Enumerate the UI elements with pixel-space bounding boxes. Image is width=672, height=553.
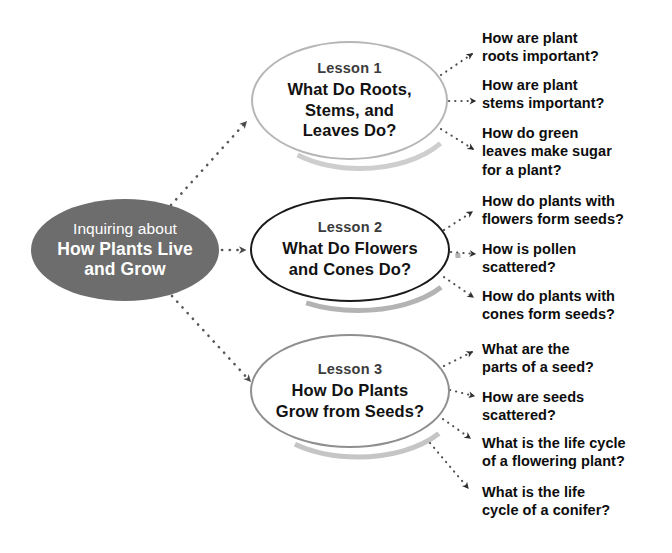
connector-lesson-2-question-3 [444,277,473,297]
question-9-line-1: What is the life cycle [482,434,668,452]
question-6-line-1: How do plants with [482,287,668,305]
question-item-8: How are seeds scattered? [482,388,668,425]
question-8-line-2: scattered? [482,406,668,424]
question-4-line-2: flowers form seeds? [482,210,668,228]
central-topic-line-2: How Plants Live [57,239,193,259]
connector-center-to-lesson-1 [171,122,246,205]
lesson-1-title-line-2: Stems, and [287,100,411,121]
question-item-5: How is pollen scattered? [482,240,668,277]
lesson-2-oval[interactable]: Lesson 2 What Do Flowers and Cones Do? [250,197,450,302]
question-item-4: How do plants with flowers form seeds? [482,192,668,229]
lesson-3-oval[interactable]: Lesson 3 How Do Plants Grow from Seeds? [250,334,450,448]
question-item-3: How do green leaves make sugar for a pla… [482,124,668,179]
lesson-2-label: Lesson 2 [318,219,382,235]
lesson-1-title-line-3: Leaves Do? [287,120,411,141]
question-item-1: How are plant roots important? [482,29,668,66]
question-item-2: How are plant stems important? [482,76,668,113]
question-3-line-2: leaves make sugar [482,142,668,160]
lesson-3-title: How Do Plants Grow from Seeds? [276,380,424,421]
connector-lesson-2-question-2 [451,252,475,254]
question-1-line-2: roots important? [482,47,668,65]
lesson-1-title: What Do Roots, Stems, and Leaves Do? [287,79,411,141]
connector-lesson-1-question-1 [441,54,472,75]
connector-center-to-lesson-3 [172,296,250,381]
connector-lesson-3-question-1 [444,352,472,366]
central-topic-line-3: and Grow [84,259,166,279]
diagram-canvas: Inquiring about How Plants Live and Grow… [0,0,672,553]
lesson-2-title-line-1: What Do Flowers [282,238,417,259]
question-5-line-1: How is pollen [482,240,668,258]
question-8-line-1: How are seeds [482,388,668,406]
question-6-line-2: cones form seeds? [482,305,668,323]
connector-lesson-1-question-3 [441,129,473,149]
connector-lesson-3-question-3 [443,419,470,438]
question-7-line-1: What are the [482,340,668,358]
lesson-1-title-line-1: What Do Roots, [287,79,411,100]
question-2-line-1: How are plant [482,76,668,94]
question-10-line-2: cycle of a conifer? [482,501,668,519]
lesson-1-label: Lesson 1 [317,60,381,76]
connector-lesson-3-question-2 [450,390,474,396]
lesson-3-label: Lesson 3 [318,361,382,377]
question-item-7: What are the parts of a seed? [482,340,668,377]
lesson-3-title-line-2: Grow from Seeds? [276,401,424,422]
question-2-line-2: stems important? [482,94,668,112]
connector-lesson-3-question-4 [430,443,468,488]
question-item-10: What is the life cycle of a conifer? [482,483,668,520]
question-3-line-3: for a plant? [482,161,668,179]
question-10-line-1: What is the life [482,483,668,501]
lesson-1-oval[interactable]: Lesson 1 What Do Roots, Stems, and Leave… [251,41,448,160]
question-9-line-2: of a flowering plant? [482,452,668,470]
question-7-line-2: parts of a seed? [482,358,668,376]
lesson-2-title-line-2: and Cones Do? [282,259,417,280]
central-topic-oval[interactable]: Inquiring about How Plants Live and Grow [31,199,219,301]
lesson-2-title: What Do Flowers and Cones Do? [282,238,417,279]
question-item-9: What is the life cycle of a flowering pl… [482,434,668,471]
question-3-line-1: How do green [482,124,668,142]
question-5-line-2: scattered? [482,258,668,276]
question-item-6: How do plants with cones form seeds? [482,287,668,324]
central-topic-line-1: Inquiring about [73,220,177,238]
question-1-line-1: How are plant [482,29,668,47]
lesson-3-title-line-1: How Do Plants [276,380,424,401]
question-4-line-1: How do plants with [482,192,668,210]
connector-lesson-2-question-1 [444,212,472,230]
